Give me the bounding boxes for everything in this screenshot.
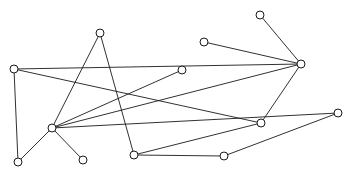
graph-edge	[14, 73, 18, 158]
graph-node[interactable]	[256, 11, 264, 19]
graph-edge	[56, 65, 297, 127]
graph-node[interactable]	[130, 151, 138, 159]
graph-node[interactable]	[48, 124, 56, 132]
graph-node[interactable]	[10, 65, 18, 73]
graph-edge	[56, 113, 334, 128]
graph-edge	[55, 131, 80, 157]
graph-node[interactable]	[79, 156, 87, 164]
graph-edge	[263, 18, 299, 61]
node-layer	[10, 11, 342, 166]
graph-edge	[228, 114, 335, 154]
graph-node[interactable]	[178, 66, 186, 74]
graph-canvas	[0, 0, 350, 178]
graph-figure	[0, 0, 350, 178]
graph-edge	[138, 155, 220, 156]
graph-edge	[138, 124, 257, 154]
graph-node[interactable]	[334, 109, 342, 117]
graph-edge	[18, 64, 297, 69]
graph-edge	[21, 131, 49, 159]
graph-edge	[56, 72, 179, 127]
graph-node[interactable]	[257, 119, 265, 127]
graph-node[interactable]	[96, 29, 104, 37]
graph-edge	[18, 70, 257, 122]
graph-node[interactable]	[200, 38, 208, 46]
graph-node[interactable]	[297, 60, 305, 68]
graph-node[interactable]	[14, 158, 22, 166]
edge-layer	[14, 18, 334, 159]
graph-edge	[263, 67, 299, 119]
graph-edge	[54, 37, 98, 125]
graph-edge	[208, 43, 297, 63]
graph-node[interactable]	[220, 152, 228, 160]
